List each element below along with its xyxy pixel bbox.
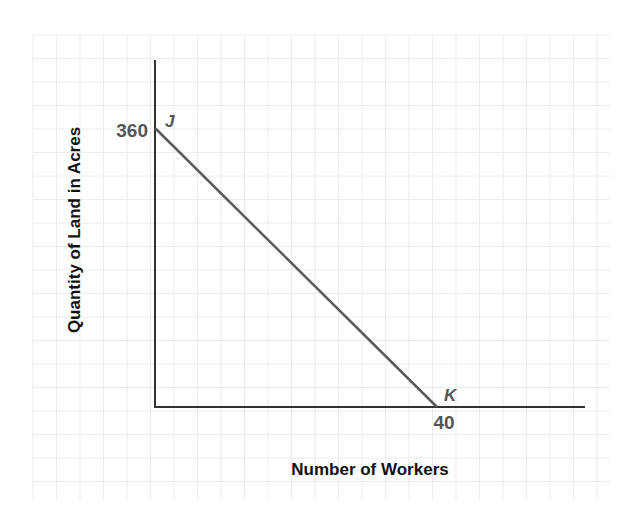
point-label-k: K (444, 386, 458, 405)
y-axis-title: Quantity of Land in Acres (65, 127, 84, 333)
chart: 360 J K 40 Number of Workers Quantity of… (0, 0, 643, 526)
x-tick-label-40: 40 (433, 412, 454, 433)
x-axis-title: Number of Workers (291, 460, 448, 479)
point-label-j: J (165, 112, 175, 131)
grid-lines (33, 35, 610, 500)
y-tick-label-360: 360 (116, 120, 148, 141)
